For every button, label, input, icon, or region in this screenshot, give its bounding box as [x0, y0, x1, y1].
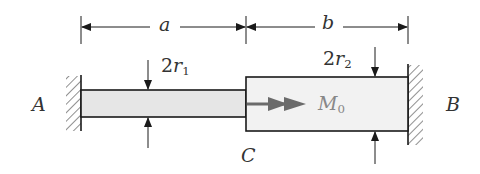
label-length-a: a [159, 15, 170, 34]
label-support-a: A [32, 95, 46, 114]
diameter-left-coef: 2 [161, 54, 173, 76]
torque-var: M [318, 92, 337, 114]
label-diameter-left: 2r1 [161, 56, 190, 78]
dimension-lines [81, 16, 408, 44]
diameter-right-coef: 2 [323, 47, 335, 69]
label-diameter-right: 2r2 [323, 49, 352, 71]
torque-sub: 0 [337, 102, 345, 116]
hatch-icon [408, 65, 423, 145]
fixed-support-b [408, 64, 423, 145]
diameter-right-var: r [335, 47, 344, 69]
diameter-right-sub: 2 [344, 57, 352, 71]
label-torque: M0 [318, 94, 345, 116]
diameter-left-sub: 1 [182, 64, 190, 78]
fixed-support-a [66, 75, 81, 131]
label-length-b: b [322, 13, 334, 32]
label-joint-c: C [241, 146, 256, 165]
label-support-b: B [446, 95, 460, 114]
shaft-diagram [0, 0, 480, 174]
shaft-segment-ac [81, 90, 246, 117]
hatch-icon [66, 76, 81, 131]
diameter-left-var: r [173, 54, 182, 76]
